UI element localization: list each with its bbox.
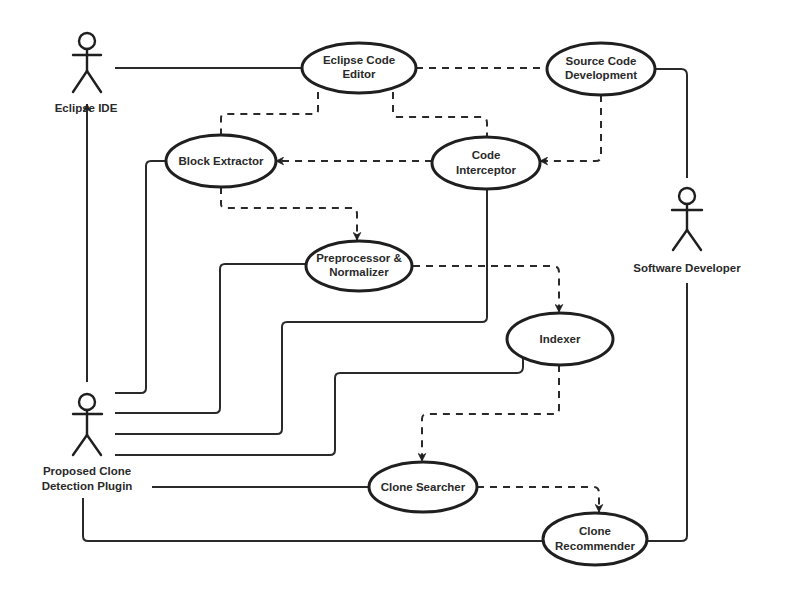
use-case-label: Recommender — [555, 540, 635, 552]
stick-figure-icon — [73, 33, 101, 92]
dependency-editor-blockextractor — [221, 92, 318, 135]
use-case-preprocessor-normalizer[interactable]: Preprocessor & Normalizer — [306, 241, 412, 291]
association-plugin-blockextractor — [115, 161, 166, 393]
stick-figure-icon — [73, 394, 102, 455]
dependency-searcher-recommender — [477, 487, 599, 512]
use-case-indexer[interactable]: Indexer — [507, 313, 613, 365]
actor-label: Eclipse IDE — [55, 102, 118, 114]
association-developer-recommender — [643, 283, 687, 541]
association-sourcedev-developer — [655, 69, 687, 178]
use-case-label: Normalizer — [329, 266, 389, 278]
dependency-sourcedev-interceptor — [540, 95, 601, 161]
dependency-editor-interceptor — [393, 92, 487, 138]
stick-figure-icon — [672, 188, 702, 250]
use-case-clone-recommender[interactable]: Clone Recommender — [543, 513, 647, 565]
use-case-label: Indexer — [540, 333, 581, 345]
use-case-label: Code — [472, 149, 501, 161]
use-case-label: Interceptor — [456, 164, 517, 176]
use-case-block-extractor[interactable]: Block Extractor — [166, 135, 276, 187]
use-case-label: Development — [565, 69, 637, 81]
use-case-label: Editor — [342, 68, 376, 80]
actor-label: Software Developer — [633, 262, 741, 274]
actor-proposed-clone-detection-plugin[interactable]: Proposed Clone Detection Plugin — [42, 394, 133, 492]
dependency-indexer-searcher — [422, 365, 559, 461]
use-case-diagram: Eclipse Code Editor Source Code Developm… — [0, 0, 785, 593]
actor-label: Detection Plugin — [42, 480, 133, 492]
use-case-code-interceptor[interactable]: Code Interceptor — [432, 137, 540, 189]
use-case-label: Block Extractor — [178, 155, 264, 167]
use-case-source-code-development[interactable]: Source Code Development — [547, 43, 655, 95]
association-plugin-indexer — [115, 358, 523, 455]
dependencies — [221, 68, 601, 512]
use-case-label: Clone Searcher — [381, 481, 466, 493]
use-case-label: Eclipse Code — [323, 54, 395, 66]
use-case-clone-searcher[interactable]: Clone Searcher — [369, 462, 477, 512]
association-plugin-preprocessor — [115, 264, 305, 413]
use-case-label: Source Code — [566, 55, 637, 67]
dependency-blockextractor-preprocessor — [221, 187, 357, 240]
actor-label: Proposed Clone — [43, 465, 131, 477]
use-case-label: Clone — [579, 525, 611, 537]
use-case-eclipse-code-editor[interactable]: Eclipse Code Editor — [302, 43, 416, 93]
use-case-label: Preprocessor & — [316, 252, 402, 264]
association-plugin-recommender — [83, 498, 546, 541]
actor-software-developer[interactable]: Software Developer — [633, 188, 741, 274]
association-plugin-interceptor — [115, 189, 487, 434]
actor-eclipse-ide[interactable]: Eclipse IDE — [55, 33, 118, 114]
